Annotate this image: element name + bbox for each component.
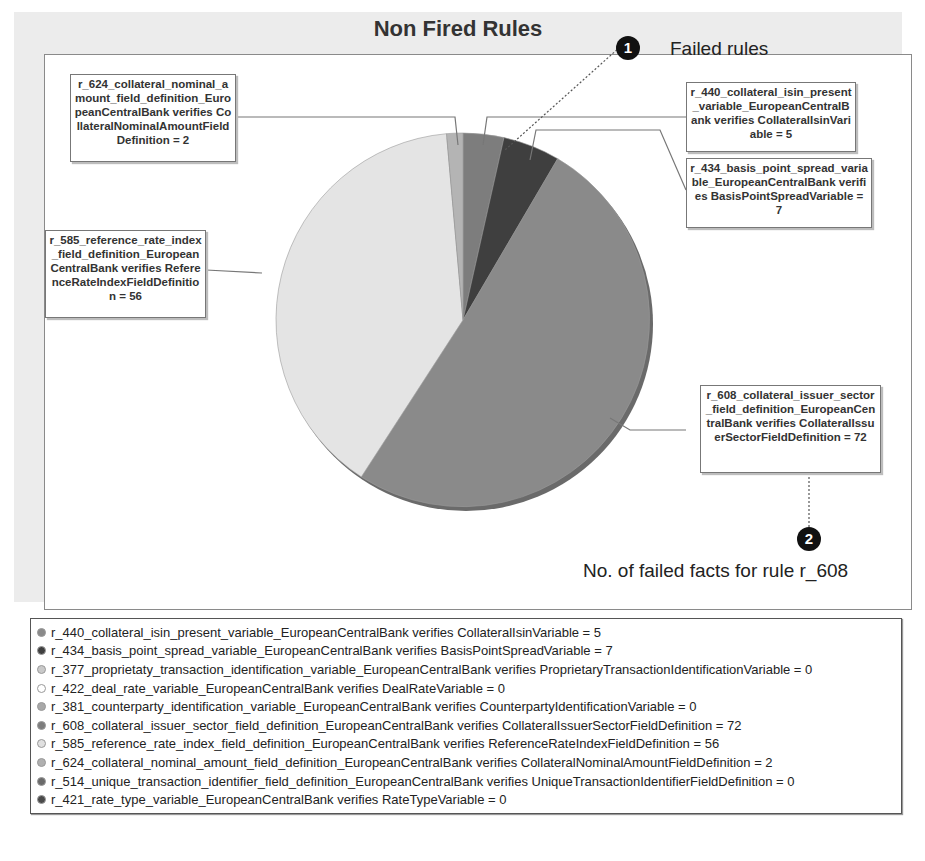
annotation-marker-2: 2 <box>797 527 821 551</box>
legend-swatch-icon <box>37 721 46 730</box>
pie-slices <box>276 133 653 511</box>
legend-item: r_585_reference_rate_index_field_definit… <box>37 735 895 754</box>
legend-item: r_422_deal_rate_variable_EuropeanCentral… <box>37 679 895 698</box>
callout-r624: r_624_collateral_nominal_amount_field_de… <box>70 74 236 162</box>
legend-swatch-icon <box>37 758 46 767</box>
legend-swatch-icon <box>37 684 46 693</box>
annotation-failed-rules: Failed rules <box>670 38 768 60</box>
callout-r440: r_440_collateral_isin_present_variable_E… <box>686 82 856 152</box>
legend-swatch-icon <box>37 702 46 711</box>
legend-item: r_624_collateral_nominal_amount_field_de… <box>37 753 895 772</box>
chart-legend: r_440_collateral_isin_present_variable_E… <box>30 618 902 814</box>
legend-item: r_381_counterparty_identification_variab… <box>37 697 895 716</box>
legend-item: r_440_collateral_isin_present_variable_E… <box>37 623 895 642</box>
callout-r585: r_585_reference_rate_index_field_definit… <box>45 230 206 318</box>
legend-item: r_421_rate_type_variable_EuropeanCentral… <box>37 790 895 809</box>
callout-r434: r_434_basis_point_spread_variable_Europe… <box>686 158 872 228</box>
legend-swatch-icon <box>37 665 46 674</box>
leader-line-r585 <box>206 270 262 273</box>
legend-swatch-icon <box>37 777 46 786</box>
legend-swatch-icon <box>37 646 46 655</box>
legend-item: r_514_unique_transaction_identifier_fiel… <box>37 772 895 791</box>
legend-swatch-icon <box>37 628 46 637</box>
legend-swatch-icon <box>37 795 46 804</box>
legend-item: r_434_basis_point_spread_variable_Europe… <box>37 642 895 661</box>
legend-item: r_608_collateral_issuer_sector_field_def… <box>37 716 895 735</box>
legend-swatch-icon <box>37 739 46 748</box>
callout-r608: r_608_collateral_issuer_sector_field_def… <box>700 385 881 473</box>
annotation-failed-facts: No. of failed facts for rule r_608 <box>583 560 848 582</box>
legend-item: r_377_proprietaty_transaction_identifica… <box>37 660 895 679</box>
annotation-marker-1: 1 <box>616 36 640 60</box>
